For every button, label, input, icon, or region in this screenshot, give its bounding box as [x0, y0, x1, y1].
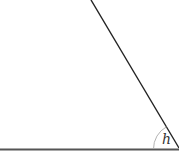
- slanted-line: [91, 0, 179, 148]
- angle-label: h: [162, 131, 171, 147]
- angle-diagram: h: [0, 0, 179, 156]
